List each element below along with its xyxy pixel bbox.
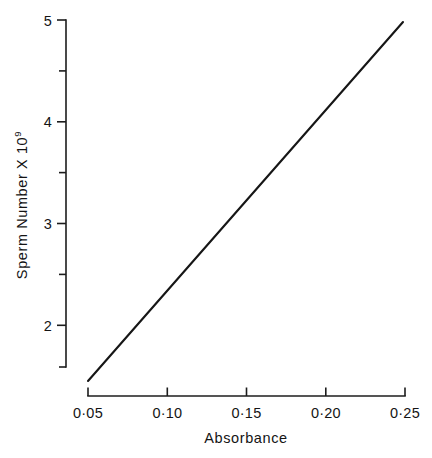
chart-figure: 5 4 3 2 0·05 0·10 0·15 0·20 0·25 Absorba… [0,0,432,458]
series-line [88,22,403,381]
y-axis-title-text: Sperm Number X 10 [14,137,30,279]
y-tick-label: 4 [44,114,52,130]
y-tick-label: 5 [44,13,52,29]
y-tick-label: 2 [44,318,52,334]
y-axis-title-exponent: 9 [12,131,23,137]
x-tick-label: 0·05 [73,405,103,421]
x-tick-label: 0·25 [390,405,420,421]
y-axis: 5 4 3 2 [44,13,66,368]
x-tick-label: 0·15 [232,405,262,421]
chart-canvas: 5 4 3 2 0·05 0·10 0·15 0·20 0·25 Absorba… [0,0,432,458]
y-tick-label: 3 [44,216,52,232]
y-axis-title-group: Sperm Number X 109 [12,131,30,279]
x-tick-label: 0·20 [311,405,341,421]
y-axis-title: Sperm Number X 109 [12,131,30,279]
x-axis-title: Absorbance [204,430,287,446]
x-axis: 0·05 0·10 0·15 0·20 0·25 [73,388,420,422]
x-tick-label: 0·10 [152,405,182,421]
data-series-standard-curve [88,22,403,381]
